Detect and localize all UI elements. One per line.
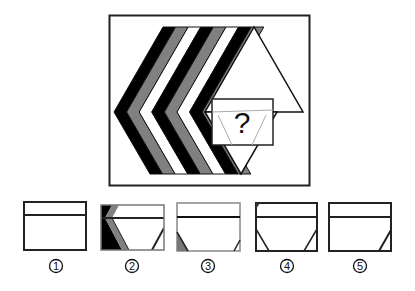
option-label-3[interactable]: 3: [202, 260, 215, 273]
svg-text:5: 5: [357, 260, 363, 272]
option-3[interactable]: [177, 203, 240, 251]
svg-text:4: 4: [284, 260, 290, 272]
option-1[interactable]: [24, 202, 86, 250]
option-labels: 1 2 3 4 5: [50, 260, 367, 273]
option-label-2[interactable]: 2: [126, 260, 139, 273]
option-4[interactable]: [256, 203, 317, 251]
option-label-1[interactable]: 1: [50, 260, 63, 273]
option-5[interactable]: [329, 203, 391, 251]
svg-text:2: 2: [129, 260, 135, 272]
puzzle-canvas: ?: [0, 0, 415, 291]
option-label-4[interactable]: 4: [281, 260, 294, 273]
question-box: ?: [212, 99, 273, 145]
svg-text:1: 1: [53, 260, 59, 272]
question-mark: ?: [234, 106, 251, 139]
svg-text:3: 3: [205, 260, 211, 272]
option-2[interactable]: [101, 205, 164, 250]
option-label-5[interactable]: 5: [354, 260, 367, 273]
